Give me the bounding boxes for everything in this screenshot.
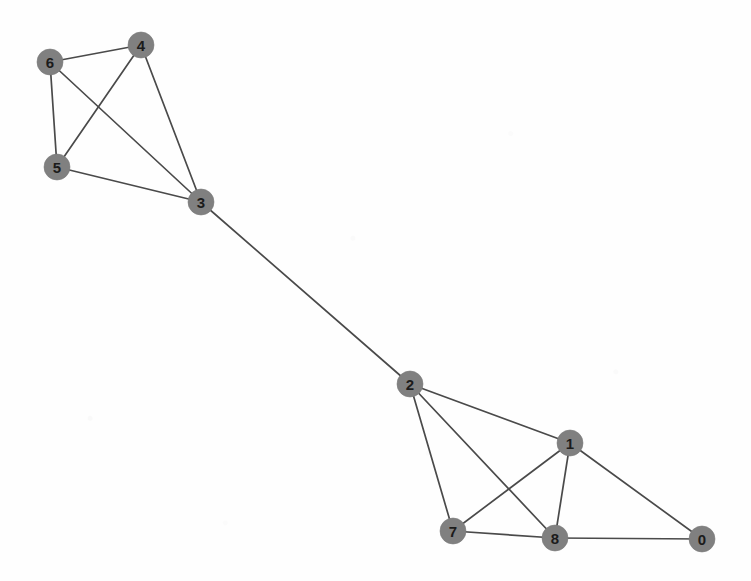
graph-node-5[interactable]: 5: [44, 154, 70, 180]
graph-edge-6-4: [50, 45, 141, 62]
graph-node-circle-1[interactable]: [557, 430, 583, 456]
graph-node-circle-3[interactable]: [188, 189, 214, 215]
graph-edge-7-8: [453, 531, 555, 538]
network-graph-figure: 012345678: [0, 0, 751, 581]
edge-layer: [50, 45, 702, 539]
graph-node-circle-2[interactable]: [397, 371, 423, 397]
graph-edge-8-0: [555, 538, 702, 539]
graph-edge-4-5: [57, 45, 141, 167]
graph-edge-3-2: [201, 202, 410, 384]
graph-node-circle-0[interactable]: [689, 526, 715, 552]
graph-node-circle-4[interactable]: [128, 32, 154, 58]
graph-node-6[interactable]: 6: [37, 49, 63, 75]
graph-node-8[interactable]: 8: [542, 525, 568, 551]
graph-node-4[interactable]: 4: [128, 32, 154, 58]
graph-edge-1-0: [570, 443, 702, 539]
graph-node-7[interactable]: 7: [440, 518, 466, 544]
graph-node-3[interactable]: 3: [188, 189, 214, 215]
graph-edge-5-3: [57, 167, 201, 202]
graph-node-circle-6[interactable]: [37, 49, 63, 75]
graph-node-2[interactable]: 2: [397, 371, 423, 397]
graph-edge-1-8: [555, 443, 570, 538]
graph-edge-6-5: [50, 62, 57, 167]
graph-edge-4-3: [141, 45, 201, 202]
graph-node-0[interactable]: 0: [689, 526, 715, 552]
graph-node-circle-8[interactable]: [542, 525, 568, 551]
graph-node-1[interactable]: 1: [557, 430, 583, 456]
graph-node-circle-5[interactable]: [44, 154, 70, 180]
graph-node-circle-7[interactable]: [440, 518, 466, 544]
graph-edge-2-1: [410, 384, 570, 443]
graph-edge-1-7: [453, 443, 570, 531]
network-graph-canvas: 012345678: [0, 0, 751, 581]
graph-edge-6-3: [50, 62, 201, 202]
